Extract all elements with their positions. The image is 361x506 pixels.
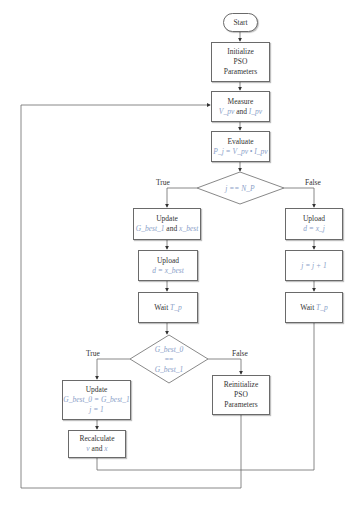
- decision1-condition: j == N_P: [210, 184, 270, 193]
- wait-tp-left-node: Wait T_p: [138, 292, 198, 323]
- upload1-line1: Upload: [157, 256, 179, 266]
- upload2-formula: d = x_j: [303, 224, 325, 234]
- decision2-bottom: G_best_1: [139, 365, 199, 374]
- evaluate-node: Evaluate P_j = V_pv • I_pv: [211, 131, 270, 162]
- reinitialize-pso-node: Reinitialize PSO Parameters: [212, 375, 270, 415]
- reinit-line1: Reinitialize: [224, 380, 259, 390]
- measure-line2: V_pv and I_pv: [219, 107, 262, 117]
- decision2-true-label: True: [86, 349, 100, 358]
- decision1-false-label: False: [305, 178, 321, 187]
- update1-line2: G_best_1 and x_best: [136, 224, 199, 234]
- wait-tp-right-node: Wait T_p: [285, 292, 343, 323]
- tp-math: T_p: [170, 303, 182, 312]
- update2-line1: Update: [86, 385, 108, 395]
- init-line3: Parameters: [224, 67, 257, 77]
- recalc-line1: Recalculate: [80, 434, 115, 444]
- recalc-line2: v and x: [86, 444, 107, 454]
- increment-j-node: j = j + 1: [285, 250, 343, 281]
- ipv-math: I_pv: [249, 107, 262, 116]
- start-label: Start: [233, 18, 247, 28]
- decision1-true-label: True: [156, 178, 170, 187]
- measure-line1: Measure: [228, 97, 254, 107]
- evaluate-line1: Evaluate: [227, 137, 253, 147]
- recalculate-node: Recalculate v and x: [68, 430, 126, 458]
- vpv-math: V_pv: [219, 107, 234, 116]
- upload1-formula: d = x_best: [152, 266, 184, 276]
- evaluate-formula: P_j = V_pv • I_pv: [213, 147, 267, 157]
- reinit-line2: PSO: [234, 390, 248, 400]
- update2-j-reset: j = 1: [89, 405, 104, 415]
- upload-xbest-node: Upload d = x_best: [138, 250, 198, 281]
- xbest-math: x_best: [179, 224, 198, 233]
- wait2-text: Wait T_p: [300, 303, 328, 313]
- update-gbest-node: Update G_best_1 and x_best: [133, 208, 201, 240]
- gbest1-math: G_best_1: [136, 224, 165, 233]
- update1-line1: Update: [156, 214, 178, 224]
- decision2-top: G_best_0: [139, 345, 199, 354]
- increment-formula: j = j + 1: [301, 261, 327, 271]
- x-math: x: [104, 444, 107, 453]
- upload-xj-node: Upload d = x_j: [285, 208, 343, 240]
- update-gbest0-node: Update G_best_0 = G_best_1 j = 1: [62, 380, 131, 420]
- update2-formula: G_best_0 = G_best_1: [63, 395, 129, 405]
- wait-label: Wait: [300, 303, 316, 312]
- init-line2: PSO: [234, 57, 248, 67]
- wait1-text: Wait T_p: [154, 303, 182, 313]
- start-node: Start: [223, 13, 258, 32]
- reinit-line3: Parameters: [224, 400, 257, 410]
- initialize-pso-node: Initialize PSO Parameters: [211, 42, 270, 82]
- tp-math: T_p: [316, 303, 328, 312]
- wait-label: Wait: [154, 303, 170, 312]
- upload2-line1: Upload: [303, 214, 325, 224]
- measure-node: Measure V_pv and I_pv: [211, 91, 270, 122]
- decision2-false-label: False: [232, 349, 248, 358]
- and-text: and: [234, 107, 249, 116]
- and-text: and: [90, 444, 105, 453]
- init-line1: Initialize: [227, 47, 254, 57]
- decision2-eq: ==: [139, 355, 199, 364]
- and-text: and: [164, 224, 179, 233]
